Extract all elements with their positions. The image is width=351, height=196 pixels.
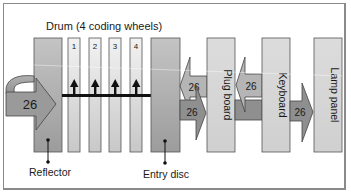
wheel-2-label: 2	[93, 42, 98, 51]
entry-disc-caption: Entry disc	[143, 168, 189, 180]
wheel-3-label: 3	[113, 42, 118, 51]
reflector-caption: Reflector	[29, 166, 71, 178]
band-plug-keyboard	[235, 100, 262, 120]
entry-to-plug-count: 26	[186, 107, 198, 118]
arrow-keyboard-to-lamp: 26	[290, 83, 313, 142]
plug-board-block: Plug board	[207, 38, 235, 152]
lamp-panel-block: Lamp panel	[314, 38, 342, 152]
keyboard-label: Keyboard	[277, 73, 289, 118]
keyboard-to-lamp-count: 26	[294, 107, 306, 118]
reflector-loop-count: 26	[23, 97, 37, 112]
wheel-4-label: 4	[134, 42, 139, 51]
plug-from-keyboard-count: 26	[245, 81, 257, 92]
plug-board-label: Plug board	[222, 70, 234, 121]
keyboard-block: Keyboard	[262, 38, 290, 152]
entry-disc-block	[151, 38, 180, 152]
wheel-1-label: 1	[72, 42, 77, 51]
